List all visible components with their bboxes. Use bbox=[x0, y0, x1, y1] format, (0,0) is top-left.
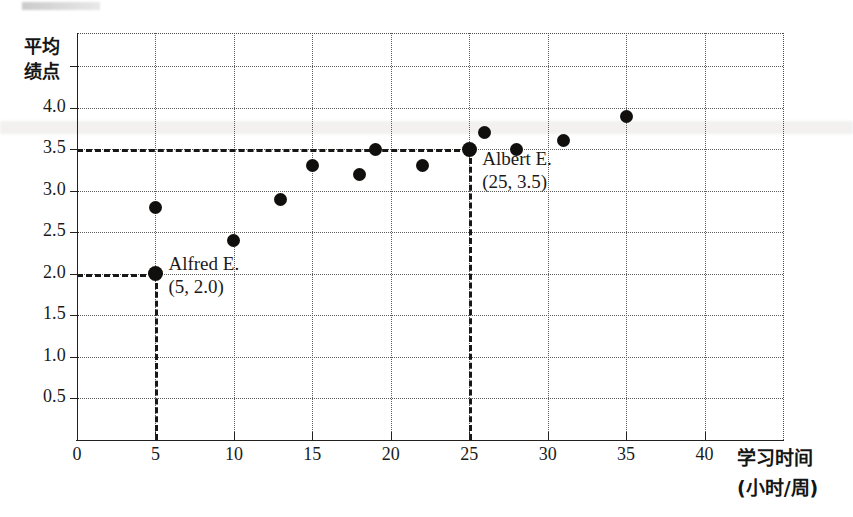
x-axis-line bbox=[76, 440, 784, 441]
x-tick-20 bbox=[391, 432, 392, 441]
y-tick-0.5 bbox=[70, 398, 79, 399]
data-point-4 bbox=[306, 159, 319, 172]
reference-line-alfred-vertical bbox=[155, 274, 158, 440]
gridline-y-4 bbox=[77, 108, 783, 109]
x-tick-label-30: 30 bbox=[539, 444, 557, 465]
data-point-5 bbox=[353, 168, 366, 181]
y-tick-label-3.5: 3.5 bbox=[43, 137, 66, 158]
x-tick-label-15: 15 bbox=[303, 444, 321, 465]
y-tick-2.5 bbox=[70, 232, 79, 233]
gridline-x-35 bbox=[626, 33, 627, 440]
x-tick-label-25: 25 bbox=[460, 444, 478, 465]
gridline-x-30 bbox=[548, 33, 549, 440]
x-tick-35 bbox=[626, 432, 627, 441]
y-axis-title-line-1: 平均 bbox=[24, 34, 70, 59]
gridline-y-4.5 bbox=[77, 66, 783, 67]
gridline-x-15 bbox=[312, 33, 313, 440]
y-tick-4 bbox=[70, 108, 79, 109]
gridline-y-1.5 bbox=[77, 315, 783, 316]
data-point-albert-e bbox=[462, 142, 477, 157]
y-tick-label-0.5: 0.5 bbox=[43, 386, 66, 407]
reference-line-albert-horizontal bbox=[77, 149, 469, 152]
x-tick-15 bbox=[312, 432, 313, 441]
data-point-9 bbox=[478, 126, 491, 139]
plot-area bbox=[77, 33, 783, 440]
x-tick-label-35: 35 bbox=[617, 444, 635, 465]
annotation-alfred-coords: (5, 2.0) bbox=[168, 275, 239, 298]
x-axis-title-line-2: (小时/周) bbox=[737, 473, 818, 503]
data-point-12 bbox=[620, 110, 633, 123]
reference-line-albert-vertical bbox=[469, 149, 472, 440]
y-tick-1 bbox=[70, 357, 79, 358]
y-axis-line bbox=[77, 33, 78, 441]
y-tick-1.5 bbox=[70, 315, 79, 316]
y-tick-label-3: 3.0 bbox=[43, 179, 66, 200]
data-point-2 bbox=[227, 234, 240, 247]
plot-frame-top bbox=[77, 33, 783, 34]
y-tick-label-2: 2.0 bbox=[43, 262, 66, 283]
y-axis-title-line-2: 绩点 bbox=[24, 59, 70, 84]
x-tick-label-10: 10 bbox=[225, 444, 243, 465]
plot-frame-right bbox=[783, 33, 784, 440]
x-tick-label-0: 0 bbox=[73, 444, 82, 465]
x-tick-25 bbox=[469, 432, 470, 441]
data-point-6 bbox=[369, 143, 382, 156]
gridline-x-40 bbox=[705, 33, 706, 440]
gridline-y-1 bbox=[77, 357, 783, 358]
x-tick-label-40: 40 bbox=[696, 444, 714, 465]
x-tick-40 bbox=[705, 432, 706, 441]
x-axis-title: 学习时间 (小时/周) bbox=[737, 443, 818, 503]
x-tick-5 bbox=[155, 432, 156, 441]
annotation-alfred-name: Alfred E. bbox=[168, 252, 239, 275]
annotation-alfred: Alfred E. (5, 2.0) bbox=[168, 252, 239, 298]
y-tick-label-2.5: 2.5 bbox=[43, 220, 66, 241]
gridline-y-3 bbox=[77, 191, 783, 192]
data-point-alfred-e bbox=[148, 266, 163, 281]
annotation-albert: Albert E. (25, 3.5) bbox=[482, 147, 552, 193]
y-axis-title: 平均 绩点 bbox=[24, 34, 70, 84]
y-tick-3.5 bbox=[70, 149, 79, 150]
y-tick-3 bbox=[70, 191, 79, 192]
data-point-11 bbox=[557, 134, 570, 147]
reference-line-alfred-horizontal bbox=[77, 274, 155, 277]
y-tick-2 bbox=[70, 274, 79, 275]
annotation-albert-name: Albert E. bbox=[482, 147, 552, 170]
x-tick-10 bbox=[234, 432, 235, 441]
annotation-albert-coords: (25, 3.5) bbox=[482, 170, 552, 193]
x-tick-30 bbox=[548, 432, 549, 441]
gridline-y-0.5 bbox=[77, 398, 783, 399]
data-point-1 bbox=[149, 201, 162, 214]
y-tick-4.5 bbox=[70, 66, 79, 67]
gridline-y-2.5 bbox=[77, 232, 783, 233]
y-tick-label-1.5: 1.5 bbox=[43, 303, 66, 324]
gridline-x-20 bbox=[391, 33, 392, 440]
y-tick-label-4: 4.0 bbox=[43, 96, 66, 117]
scatter-plot-figure: 平均 绩点 学习时间 (小时/周) 0.51.01.52.02.53.03.54… bbox=[0, 0, 853, 517]
x-axis-title-line-1: 学习时间 bbox=[737, 443, 818, 473]
x-tick-label-5: 5 bbox=[151, 444, 160, 465]
data-point-7 bbox=[416, 159, 429, 172]
data-point-3 bbox=[274, 193, 287, 206]
x-tick-label-20: 20 bbox=[382, 444, 400, 465]
y-tick-label-1: 1.0 bbox=[43, 345, 66, 366]
